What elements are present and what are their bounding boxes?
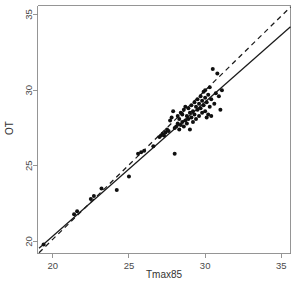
x-tick-label: 30 [200,260,211,271]
data-point [167,129,171,133]
scatter-plot-figure: 20253035 20253035 Tmax85 OT [0,0,299,287]
data-point [142,149,146,153]
data-point [189,103,193,107]
data-point [203,109,207,113]
data-point [189,115,193,119]
data-point [180,112,184,116]
data-point [192,112,196,116]
x-tick-label: 20 [47,260,58,271]
y-tick-label: 35 [23,9,34,20]
data-point [218,108,222,112]
data-point [115,188,119,192]
data-point [89,197,93,201]
data-point [170,115,174,119]
data-point [209,114,213,118]
data-point [211,67,215,71]
data-point [205,100,209,104]
data-point [127,174,131,178]
y-tick-label: 20 [23,236,34,247]
data-point [215,72,219,76]
data-point [192,100,196,104]
data-point [173,152,177,156]
data-point [199,94,203,98]
data-point [197,114,201,118]
data-point [185,121,189,125]
data-point [171,109,175,113]
y-axis-label: OT [4,121,15,135]
data-point [199,106,203,110]
data-point [212,102,216,106]
data-point [214,91,218,95]
x-tick-label: 25 [124,260,135,271]
data-point [191,120,195,124]
data-point [75,209,79,213]
data-point [200,99,204,103]
data-point [220,88,224,92]
data-point [206,93,210,97]
data-point [42,242,46,246]
data-point [209,97,213,101]
data-point [151,144,155,148]
data-point [203,96,207,100]
data-point [203,88,207,92]
data-point [177,117,181,121]
data-point [186,106,190,110]
data-point [194,117,198,121]
data-point [92,194,96,198]
x-tick-label: 35 [276,260,287,271]
y-tick-label: 30 [23,85,34,96]
x-axis-label: Tmax85 [146,269,183,280]
data-point [72,212,76,216]
data-point [100,186,104,190]
y-tick-label: 25 [23,161,34,172]
data-point [217,94,221,98]
data-point [196,97,200,101]
data-point [188,128,192,132]
plot-canvas: 20253035 20253035 Tmax85 OT [0,0,299,287]
data-point [177,128,181,132]
data-point [202,103,206,107]
data-point [208,85,212,89]
data-point [208,105,212,109]
data-point [197,102,201,106]
data-point [182,124,186,128]
